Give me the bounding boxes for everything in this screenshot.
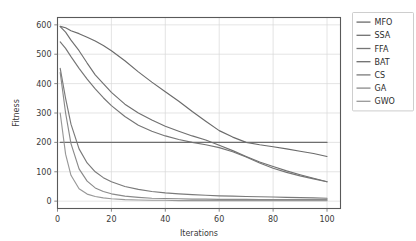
axis-ticks xyxy=(54,25,327,212)
y-tick-label: 0 xyxy=(46,197,51,206)
x-tick-label: 100 xyxy=(319,215,334,224)
gridlines xyxy=(58,18,341,209)
y-tick-label: 100 xyxy=(36,168,51,177)
x-axis-title: Iterations xyxy=(180,229,218,238)
legend-label-mfo: MFO xyxy=(375,18,393,27)
y-axis-title: Fitness xyxy=(12,99,21,127)
series-line-cs xyxy=(60,68,327,198)
x-tick-label: 80 xyxy=(268,215,278,224)
legend-label-bat: BAT xyxy=(375,58,390,67)
figure: 0204060801000100200300400500600Iteration… xyxy=(0,0,416,241)
legend: MFOSSAFFABATCSGAGWO xyxy=(353,13,414,111)
y-tick-label: 200 xyxy=(36,138,51,147)
x-tick-label: 0 xyxy=(55,215,60,224)
y-tick-label: 300 xyxy=(36,109,51,118)
y-tick-label: 500 xyxy=(36,50,51,59)
x-tick-label: 60 xyxy=(214,215,224,224)
legend-label-gwo: GWO xyxy=(375,97,395,106)
series-line-mfo xyxy=(60,26,327,156)
x-tick-label: 20 xyxy=(106,215,116,224)
series-line-gwo xyxy=(60,113,327,201)
y-tick-label: 600 xyxy=(36,21,51,30)
fitness-convergence-chart: 0204060801000100200300400500600Iteration… xyxy=(0,0,416,241)
series-lines xyxy=(60,26,327,200)
y-tick-label: 400 xyxy=(36,80,51,89)
series-line-ssa xyxy=(60,27,327,182)
legend-label-cs: CS xyxy=(375,71,386,80)
legend-label-ffa: FFA xyxy=(375,45,389,54)
legend-label-ga: GA xyxy=(375,84,387,93)
x-tick-label: 40 xyxy=(160,215,170,224)
legend-label-ssa: SSA xyxy=(375,31,391,40)
